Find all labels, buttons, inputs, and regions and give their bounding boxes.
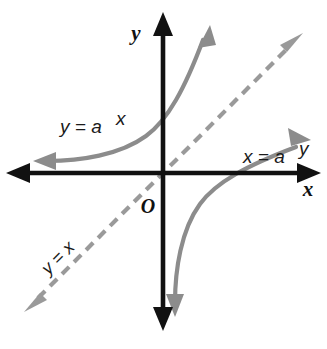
exponential-curve-arrow-up bbox=[198, 25, 216, 48]
logarithmic-curve-label: x = a y bbox=[242, 138, 310, 167]
identity-line-label: y = x bbox=[36, 236, 79, 279]
logarithmic-curve-path bbox=[175, 147, 296, 303]
y-axis-label: y bbox=[128, 21, 141, 45]
exponential-curve-arrow-left bbox=[33, 152, 56, 170]
identity-line-arrow-upper-right bbox=[280, 33, 303, 52]
exponential-label-base: y = a bbox=[58, 116, 102, 137]
exponential-logarithmic-symmetry-figure: y x O y = a x x = a y y = x bbox=[0, 0, 327, 349]
y-axis-arrow-up bbox=[153, 12, 173, 36]
x-axis-arrow-left bbox=[6, 163, 30, 183]
coordinate-plane-svg: y x O y = a x x = a y y = x bbox=[0, 0, 327, 349]
y-axis-arrow-down bbox=[153, 307, 173, 331]
origin-label: O bbox=[141, 195, 155, 217]
identity-line-arrow-lower-left bbox=[24, 293, 47, 312]
exponential-curve-label: y = a x bbox=[58, 108, 127, 137]
logarithmic-label-base: x = a bbox=[242, 146, 285, 167]
x-axis-label: x bbox=[302, 177, 314, 201]
logarithmic-label-exponent: y bbox=[297, 138, 310, 159]
logarithmic-curve-group bbox=[166, 128, 311, 317]
exponential-curve-path bbox=[47, 40, 203, 161]
exponential-label-exponent: x bbox=[115, 108, 127, 129]
